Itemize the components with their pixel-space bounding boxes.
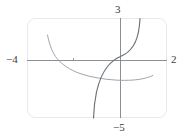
coordinate-plane-graph	[0, 0, 186, 139]
plot-frame	[28, 19, 167, 118]
axis-label-y-min: −5	[113, 122, 125, 133]
axis-label-x-max: 2	[171, 54, 177, 65]
axis-label-x-min: −4	[6, 54, 18, 65]
axis-label-y-max: 3	[115, 4, 121, 15]
graph-screenshot: −4 2 3 −5	[0, 0, 186, 139]
